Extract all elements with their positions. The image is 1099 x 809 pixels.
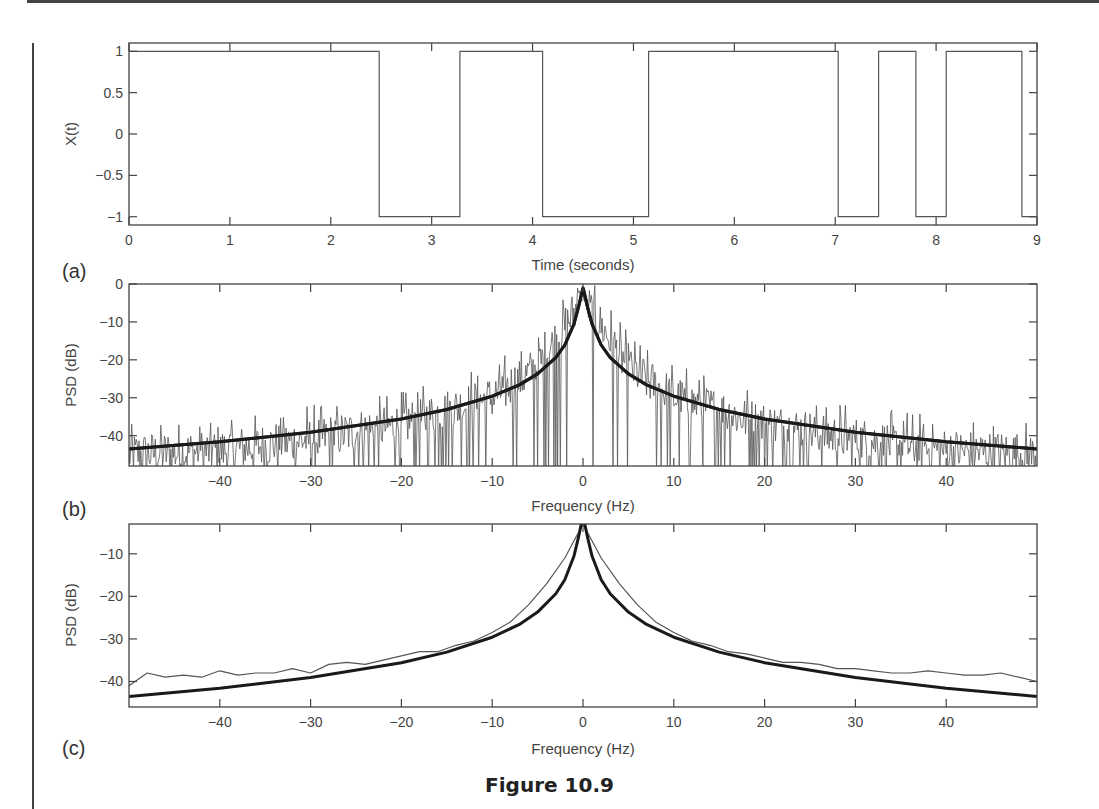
panel-b-label: (b): [62, 498, 86, 520]
figure-labels: X(t) Time (seconds) (a) PSD (dB) Frequen…: [0, 0, 1099, 809]
panel-c-label: (c): [62, 737, 85, 759]
panel-c-ylabel: PSD (dB): [62, 583, 79, 646]
panel-a-xlabel: Time (seconds): [532, 256, 635, 273]
panel-a-label: (a): [62, 260, 86, 282]
figure-caption: Figure 10.9: [0, 773, 1099, 797]
panel-a-ylabel: X(t): [62, 122, 79, 146]
panel-b-ylabel: PSD (dB): [62, 343, 79, 406]
panel-c-xlabel: Frequency (Hz): [531, 740, 634, 757]
panel-b-xlabel: Frequency (Hz): [531, 497, 634, 514]
